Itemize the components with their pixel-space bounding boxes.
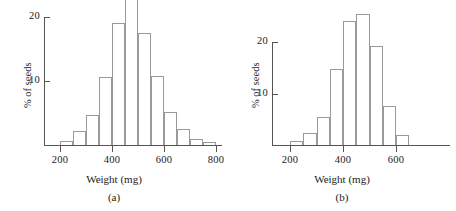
x-tick-label-400: 400 bbox=[325, 154, 361, 165]
x-tick-600 bbox=[396, 146, 397, 152]
bar-200-250 bbox=[290, 141, 303, 145]
x-tick-label-600: 600 bbox=[378, 154, 414, 165]
figure-two-histograms: 1020200400600800% of seedsWeight (mg)(a)… bbox=[0, 0, 456, 211]
x-axis-line bbox=[272, 145, 450, 146]
bar-600-650 bbox=[396, 135, 409, 145]
bar-550-600 bbox=[383, 106, 396, 145]
bar-450-500 bbox=[356, 14, 369, 145]
x-tick-200 bbox=[290, 146, 291, 152]
x-tick-label-200: 200 bbox=[272, 154, 308, 165]
bar-250-300 bbox=[73, 131, 86, 145]
bar-350-400 bbox=[99, 77, 112, 145]
bar-500-550 bbox=[138, 33, 151, 145]
bar-650-700 bbox=[177, 129, 190, 145]
x-axis-label: Weight (mg) bbox=[228, 173, 456, 185]
bar-250-300 bbox=[303, 133, 316, 145]
bar-300-350 bbox=[317, 117, 330, 145]
bar-550-600 bbox=[151, 76, 164, 145]
y-axis-label: % of seeds bbox=[250, 63, 261, 109]
x-tick-800 bbox=[216, 146, 217, 152]
y-tick-label-20: 20 bbox=[244, 35, 268, 46]
bar-600-650 bbox=[164, 112, 177, 145]
y-tick-10 bbox=[45, 81, 50, 82]
bar-700-750 bbox=[190, 139, 203, 145]
x-tick-label-400: 400 bbox=[94, 154, 130, 165]
y-tick-label-20: 20 bbox=[16, 10, 40, 21]
x-tick-400 bbox=[343, 146, 344, 152]
x-axis-label: Weight (mg) bbox=[0, 173, 228, 185]
bar-400-450 bbox=[343, 21, 356, 145]
x-axis-line bbox=[44, 145, 222, 146]
panel-b: 1020200400600% of seedsWeight (mg)(b) bbox=[228, 0, 456, 211]
bar-750-800 bbox=[203, 142, 216, 145]
panel-caption: (a) bbox=[0, 191, 228, 203]
x-tick-label-200: 200 bbox=[42, 154, 78, 165]
x-tick-600 bbox=[164, 146, 165, 152]
panel-a: 1020200400600800% of seedsWeight (mg)(a) bbox=[0, 0, 228, 211]
bar-300-350 bbox=[86, 115, 99, 145]
bar-500-550 bbox=[370, 46, 383, 145]
panel-caption: (b) bbox=[228, 191, 456, 203]
bar-350-400 bbox=[330, 69, 343, 145]
x-tick-label-600: 600 bbox=[146, 154, 182, 165]
y-tick-20 bbox=[45, 17, 50, 18]
x-tick-400 bbox=[112, 146, 113, 152]
bar-400-450 bbox=[112, 23, 125, 145]
bar-200-250 bbox=[60, 141, 73, 145]
bar-450-500 bbox=[125, 0, 138, 145]
y-tick-20 bbox=[273, 42, 278, 43]
y-axis-label: % of seeds bbox=[22, 63, 33, 109]
x-tick-200 bbox=[60, 146, 61, 152]
y-tick-10 bbox=[273, 94, 278, 95]
